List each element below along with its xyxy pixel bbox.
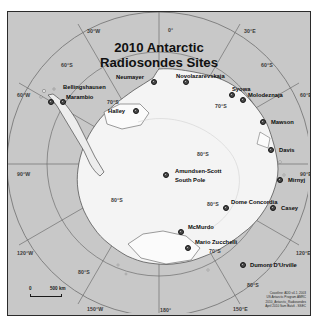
station-label: Molodeznaja — [248, 93, 283, 99]
station-marker[interactable] — [240, 97, 246, 103]
station-marker[interactable] — [268, 147, 274, 153]
station-marker[interactable] — [185, 245, 191, 251]
station-label: Casey — [281, 206, 298, 212]
station-marker[interactable] — [223, 205, 229, 211]
latitude-label: 70°S — [215, 104, 227, 109]
longitude-label: 60°E — [300, 93, 311, 98]
station-marker[interactable] — [48, 99, 54, 105]
station-label: Mario Zucchelli — [195, 240, 237, 246]
station-marker[interactable] — [183, 79, 189, 85]
station-marker[interactable] — [151, 79, 157, 85]
station-marker[interactable] — [133, 108, 139, 114]
station-marker[interactable] — [277, 177, 283, 183]
station-label: Halley — [108, 109, 125, 115]
scale-zero-label: 0 — [29, 287, 32, 292]
station-label: Novolazarevskaja — [176, 74, 225, 80]
station-label: Neumayer — [116, 75, 144, 81]
antarctic-radiosondes-map: 0°30°E60°E90°E120°E150°E180°150°W120°W90… — [0, 0, 316, 327]
station-label: McMurdo — [188, 225, 214, 231]
credits-block: Coastline: ADD v4.1, 2003 US Antarctic P… — [265, 291, 306, 308]
station-label: Davis — [279, 148, 294, 154]
station-label: Marambio — [66, 95, 93, 101]
latitude-label: 70°S — [107, 100, 119, 105]
page-title: 2010 Antarctic Radiosondes Sites — [8, 40, 310, 71]
station-marker[interactable] — [163, 172, 169, 178]
credits-line-4: April 2010 Sam Batzli - SSEC — [265, 304, 306, 308]
peninsula-island — [53, 88, 55, 90]
coastal-island — [279, 161, 282, 164]
scale-distance-label: 500 km — [50, 287, 66, 292]
station-label: Mawson — [271, 120, 294, 126]
station-label: Amundsen-Scott — [175, 169, 221, 175]
peninsula-island — [40, 96, 42, 98]
longitude-label: 150°E — [233, 307, 248, 312]
latitude-label: 80°S — [78, 270, 90, 275]
latitude-label: 80°S — [197, 152, 209, 157]
latitude-label: 80°S — [111, 198, 123, 203]
longitude-label: 60°W — [17, 93, 30, 98]
title-line-2: Radiosondes Sites — [8, 55, 310, 70]
longitude-label: 180° — [160, 308, 171, 313]
longitude-label: 0° — [168, 28, 173, 33]
map-frame: 0°30°E60°E90°E120°E150°E180°150°W120°W90… — [7, 11, 311, 316]
scale-bar-graphic — [30, 294, 62, 297]
station-label: Mirnyj — [288, 178, 305, 184]
longitude-label: 90°W — [17, 172, 30, 177]
station-marker[interactable] — [240, 262, 246, 268]
station-marker[interactable] — [260, 119, 266, 125]
station-label: Dumont D'Urville — [250, 263, 297, 269]
peninsula-island — [42, 89, 45, 92]
longitude-label: 150°W — [87, 307, 103, 312]
station-label: Bellingshausen — [63, 85, 106, 91]
coastal-island — [283, 174, 285, 176]
station-label: South Pole — [175, 178, 205, 184]
title-line-1: 2010 Antarctic — [8, 40, 310, 55]
station-marker[interactable] — [229, 92, 235, 98]
latitude-label: 70°S — [209, 249, 221, 254]
coastal-island — [125, 273, 127, 275]
longitude-label: 120°W — [17, 251, 33, 256]
longitude-label: 120°E — [296, 251, 311, 256]
station-marker[interactable] — [178, 229, 184, 235]
latitude-label: 80°S — [247, 283, 259, 288]
coastal-island — [207, 269, 209, 271]
latitude-label: 80°S — [207, 202, 219, 207]
longitude-label: 30°W — [87, 29, 100, 34]
longitude-label: 30°E — [244, 29, 256, 34]
coastal-island — [117, 264, 119, 266]
station-marker[interactable] — [270, 205, 276, 211]
